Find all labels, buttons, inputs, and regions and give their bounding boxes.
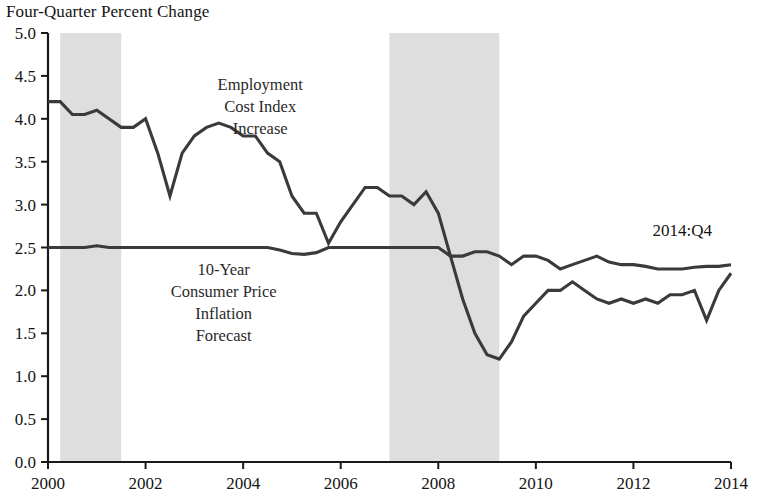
x-tick-label: 2014 xyxy=(714,474,749,493)
x-axis-ticks-group: 20002002200420062008201020122014 xyxy=(31,462,749,493)
x-tick-label: 2010 xyxy=(519,474,553,493)
annotation-line: Consumer Price xyxy=(171,282,277,301)
annotation-line: Forecast xyxy=(196,326,252,345)
y-tick-label: 4.5 xyxy=(15,67,36,86)
annotation-line: 2014:Q4 xyxy=(652,221,712,240)
y-tick-label: 0.0 xyxy=(15,453,36,472)
chart-container: Four-Quarter Percent Change 0.00.51.01.5… xyxy=(0,0,760,496)
annotation-line: 10-Year xyxy=(197,260,250,279)
x-tick-label: 2008 xyxy=(421,474,455,493)
y-tick-label: 3.5 xyxy=(15,153,36,172)
endpoint-label: 2014:Q4 xyxy=(652,221,712,240)
y-tick-label: 1.0 xyxy=(15,367,36,386)
eci-label: EmploymentCost IndexIncrease xyxy=(218,75,304,138)
y-tick-label: 2.5 xyxy=(15,239,36,258)
y-axis-ticks-group: 0.00.51.01.52.02.53.03.54.04.55.0 xyxy=(15,24,48,472)
annotation-line: Inflation xyxy=(195,304,252,323)
y-tick-label: 3.0 xyxy=(15,196,36,215)
annotation-line: Employment xyxy=(218,75,304,94)
y-tick-label: 1.5 xyxy=(15,324,36,343)
chart-plot-area: 0.00.51.01.52.02.53.03.54.04.55.0 200020… xyxy=(0,0,760,496)
x-tick-label: 2002 xyxy=(129,474,163,493)
y-tick-label: 0.5 xyxy=(15,410,36,429)
y-tick-label: 5.0 xyxy=(15,24,36,43)
x-tick-label: 2004 xyxy=(226,474,261,493)
x-tick-label: 2000 xyxy=(31,474,65,493)
x-tick-label: 2006 xyxy=(324,474,358,493)
y-tick-label: 2.0 xyxy=(15,281,36,300)
y-tick-label: 4.0 xyxy=(15,110,36,129)
annotation-line: Cost Index xyxy=(224,97,297,116)
x-tick-label: 2012 xyxy=(616,474,650,493)
annotation-line: Increase xyxy=(233,119,288,138)
cpi-label: 10-YearConsumer PriceInflationForecast xyxy=(171,260,277,345)
